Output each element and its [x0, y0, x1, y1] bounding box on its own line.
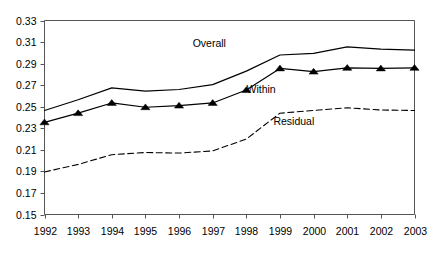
series-annotation-residual: Residual — [273, 115, 314, 127]
y-axis-tick-label: 0.15 — [0, 209, 37, 221]
data-point-marker-within — [107, 100, 116, 106]
series-line-within — [45, 68, 415, 122]
y-axis-tick-label: 0.33 — [0, 15, 37, 27]
plot-frame — [45, 21, 415, 215]
y-axis-tick-label: 0.21 — [0, 144, 37, 156]
chart-container: 0.330.310.290.270.250.230.210.190.170.15… — [0, 0, 431, 267]
x-axis-tick-label: 2003 — [394, 225, 431, 237]
data-point-marker-within — [208, 100, 217, 106]
y-axis-tick-label: 0.19 — [0, 165, 37, 177]
y-axis-tick-label: 0.17 — [0, 187, 37, 199]
y-axis-tick-label: 0.29 — [0, 58, 37, 70]
y-axis-tick-label: 0.27 — [0, 79, 37, 91]
y-axis-tick-label: 0.23 — [0, 122, 37, 134]
series-line-residual — [45, 108, 415, 172]
series-annotation-within: Within — [247, 83, 276, 95]
data-point-marker-within — [275, 65, 284, 71]
series-annotation-overall: Overall — [193, 37, 226, 49]
y-axis-tick-label: 0.31 — [0, 36, 37, 48]
y-axis-tick-label: 0.25 — [0, 101, 37, 113]
series-line-overall — [45, 47, 415, 111]
